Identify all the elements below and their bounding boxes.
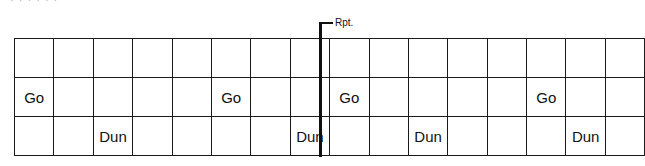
grid-cell-empty	[448, 39, 487, 78]
grid-cell-empty	[54, 39, 93, 78]
grid-cell-empty	[211, 39, 250, 78]
repeat-barline	[319, 22, 322, 157]
grid-cell-empty	[54, 117, 93, 156]
grid-cell-empty	[93, 78, 132, 117]
grid-cell-empty	[290, 39, 329, 78]
grid-cell-empty	[251, 117, 290, 156]
grid-cell-dun: Dun	[408, 117, 447, 156]
grid-cell-empty	[15, 117, 54, 156]
grid-cell-empty	[448, 117, 487, 156]
grid-cell-empty	[133, 117, 172, 156]
grid-cell-empty	[369, 117, 408, 156]
grid-cell-empty	[211, 117, 250, 156]
grid-cell-dun: Dun	[566, 117, 605, 156]
grid-cell-go: Go	[211, 78, 250, 117]
grid-cell-empty	[566, 78, 605, 117]
repeat-bracket	[319, 22, 333, 24]
grid-cell-go: Go	[330, 78, 369, 117]
grid-cell-empty	[330, 117, 369, 156]
grid-cell-empty	[408, 78, 447, 117]
grid-cell-empty	[369, 78, 408, 117]
grid-cell-go: Go	[527, 78, 566, 117]
grid-cell-dun: Dun	[93, 117, 132, 156]
grid-cell-empty	[15, 39, 54, 78]
grid-cell-empty	[605, 117, 644, 156]
cutoff-heading-text: · · · · · ·	[10, 0, 58, 6]
grid-cell-empty	[133, 39, 172, 78]
grid-row: GoGoGoGo	[15, 78, 645, 117]
grid-cell-empty	[369, 39, 408, 78]
grid-row	[15, 39, 645, 78]
grid-cell-empty	[408, 39, 447, 78]
grid-cell-empty	[527, 117, 566, 156]
grid-cell-empty	[172, 117, 211, 156]
grid-cell-go: Go	[15, 78, 54, 117]
grid-cell-empty	[93, 39, 132, 78]
repeat-label: Rpt.	[335, 17, 353, 28]
grid-cell-empty	[605, 78, 644, 117]
grid-cell-empty	[172, 78, 211, 117]
grid-cell-empty	[172, 39, 211, 78]
grid-cell-empty	[487, 117, 526, 156]
grid-cell-empty	[566, 39, 605, 78]
grid-cell-empty	[251, 39, 290, 78]
grid-cell-empty	[251, 78, 290, 117]
grid-cell-empty	[133, 78, 172, 117]
grid-cell-empty	[487, 39, 526, 78]
grid-body: GoGoGoGoDunDunDunDun	[15, 39, 645, 156]
grid-cell-dun: Dun	[290, 117, 329, 156]
grid-cell-empty	[448, 78, 487, 117]
grid-cell-empty	[527, 39, 566, 78]
grid-cell-empty	[290, 78, 329, 117]
grid-row: DunDunDunDun	[15, 117, 645, 156]
rhythm-grid: GoGoGoGoDunDunDunDun	[14, 38, 645, 156]
grid-cell-empty	[487, 78, 526, 117]
grid-cell-empty	[330, 39, 369, 78]
grid-cell-empty	[54, 78, 93, 117]
grid-cell-empty	[605, 39, 644, 78]
